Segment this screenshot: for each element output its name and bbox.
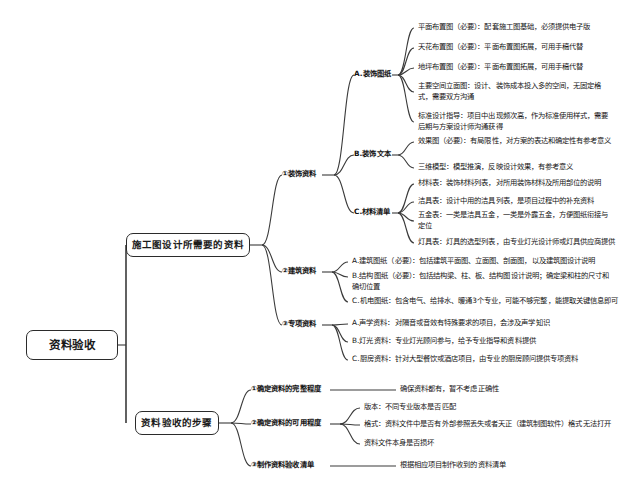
leaf-label: 三维模型：模型推演，反映设计效果，有参考意义 <box>418 162 573 171</box>
node-step-completeness[interactable]: ①确定资料的完整程度 <box>251 384 321 395</box>
node-label: ②确定资料的可用程度 <box>251 418 321 427</box>
leaf-main-elevation[interactable]: 主要空间立面图：设计、装饰成本投入多的空间，无固定格式，需要双方沟通 <box>418 81 614 102</box>
leaf-ensure-all-present[interactable]: 确保资料都有，暂不考虑正确性 <box>400 384 499 395</box>
node-material-list[interactable]: C.材料清单 <box>354 207 390 218</box>
root-node-label: 资料验收 <box>49 338 95 352</box>
leaf-kitchen-materials[interactable]: C.厨房资料：针对大型餐饮或酒店项目，由专业的厨房顾问提供专项资料 <box>352 354 578 365</box>
leaf-format-issue[interactable]: 格式：资料文件中是否有外部参照丢失或者天正（建筑制图软件）格式无法打开 <box>364 419 611 430</box>
leaf-ceiling-layout[interactable]: 天花布置图（必要）：平面布置图拓展，可用手稿代替 <box>418 42 583 53</box>
leaf-lamp-table[interactable]: 灯具表：灯具的选型列表，由专业灯光设计师或灯具供应商提供 <box>418 237 615 248</box>
leaf-3d-model[interactable]: 三维模型：模型推演，反映设计效果，有参考意义 <box>418 162 573 173</box>
leaf-label: 洁具表：设计中用的洁具列表，是项目过程中的补充资料 <box>418 196 594 205</box>
node-step-usability[interactable]: ②确定资料的可用程度 <box>251 418 321 429</box>
node-label: ③专项资料 <box>282 319 316 328</box>
leaf-label: B.结构图纸（必要）：包括结构梁、柱、板、结构图设计说明；确定梁和柱的尺寸和确切… <box>352 271 609 291</box>
node-label: ①确定资料的完整程度 <box>251 384 321 393</box>
leaf-sanitary-table[interactable]: 洁具表：设计中用的洁具列表，是项目过程中的补充资料 <box>418 196 594 207</box>
leaf-label: 平面布置图（必要）：配套施工图基础，必须提供电子版 <box>418 22 590 31</box>
leaf-label: C.机电图纸：包含电气、给排水、暖通3个专业，可能不够完整，能提取关键信息即可 <box>352 296 618 305</box>
node-label: ③制作资料验收清单 <box>251 460 314 469</box>
node-label: B.装饰文本 <box>354 149 391 158</box>
leaf-label: 效果图（必要）：有局限性，对方案的表达和确定性有参考意义 <box>418 136 611 145</box>
leaf-label: 版本：不同专业版本是否匹配 <box>364 402 456 411</box>
node-step-checklist[interactable]: ③制作资料验收清单 <box>251 460 314 471</box>
leaf-rendering[interactable]: 效果图（必要）：有局限性，对方案的表达和确定性有参考意义 <box>418 136 611 147</box>
leaf-label: 主要空间立面图：设计、装饰成本投入多的空间，无固定格式，需要双方沟通 <box>418 81 601 101</box>
leaf-version-match[interactable]: 版本：不同专业版本是否匹配 <box>364 402 456 413</box>
leaf-floor-layout[interactable]: 地坪布置图（必要）：平面布置图拓展，可用手稿代替 <box>418 62 583 73</box>
node-special-materials[interactable]: ③专项资料 <box>282 319 316 330</box>
leaf-architectural-drawings[interactable]: A.建筑图纸（必要）：包括建筑平面图、立面图、剖面图，以及建筑图设计说明 <box>352 256 595 267</box>
leaf-label: 天花布置图（必要）：平面布置图拓展，可用手稿代替 <box>418 42 583 51</box>
leaf-label: 地坪布置图（必要）：平面布置图拓展，可用手稿代替 <box>418 62 583 71</box>
leaf-label: 格式：资料文件中是否有外部参照丢失或者天正（建筑制图软件）格式无法打开 <box>364 419 611 428</box>
leaf-label: C.厨房资料：针对大型餐饮或酒店项目，由专业的厨房顾问提供专项资料 <box>352 354 578 363</box>
leaf-label: 五金表：一类是洁具五金，一类是外露五金，方便图纸衔接与定位 <box>418 210 608 230</box>
node-label: C.材料清单 <box>354 207 390 216</box>
leaf-structural-drawings[interactable]: B.结构图纸（必要）：包括结构梁、柱、板、结构图设计说明；确定梁和柱的尺寸和确切… <box>352 271 614 292</box>
mindmap-canvas: 资料验收 施工图设计所需要的资料 资料验收的步骤 ①装饰资料 ②建筑资料 ③专项… <box>0 0 632 498</box>
leaf-file-corrupted[interactable]: 资料文件本身是否损坏 <box>364 438 435 449</box>
leaf-mep-drawings[interactable]: C.机电图纸：包含电气、给排水、暖通3个专业，可能不够完整，能提取关键信息即可 <box>352 296 618 307</box>
leaf-material-table[interactable]: 材料表：装饰材料列表，对所用装饰材料及所用部位的说明 <box>418 178 601 189</box>
root-node[interactable]: 资料验收 <box>26 330 118 360</box>
node-label: ②建筑资料 <box>282 266 316 275</box>
leaf-label: 标准设计指导：项目中出现频次高，作为标准使用样式，需要后期与方案设计师沟通获得 <box>418 111 608 131</box>
leaf-acoustic-materials[interactable]: A.声学资料：对隔音或音效有特殊要求的项目，会涉及声学知识 <box>352 318 550 329</box>
leaf-label: B.灯光资料：专业灯光顾问参与，给予专业指导和资料提供 <box>352 336 536 345</box>
leaf-standard-design-guide[interactable]: 标准设计指导：项目中出现频次高，作为标准使用样式，需要后期与方案设计师沟通获得 <box>418 111 614 132</box>
node-architecture-materials[interactable]: ②建筑资料 <box>282 266 316 277</box>
leaf-label: 材料表：装饰材料列表，对所用装饰材料及所用部位的说明 <box>418 178 601 187</box>
leaf-label: 灯具表：灯具的选型列表，由专业灯光设计师或灯具供应商提供 <box>418 237 615 246</box>
leaf-plan-layout[interactable]: 平面布置图（必要）：配套施工图基础，必须提供电子版 <box>418 22 590 33</box>
leaf-label: A.声学资料：对隔音或音效有特殊要求的项目，会涉及声学知识 <box>352 318 550 327</box>
node-decoration-document[interactable]: B.装饰文本 <box>354 149 391 160</box>
node-decoration-materials[interactable]: ①装饰资料 <box>282 169 316 180</box>
node-decoration-drawings[interactable]: A.装饰图纸 <box>354 69 391 80</box>
leaf-label: 根据相应项目制作收到的资料清单 <box>400 460 506 469</box>
branch-label: 施工图设计所需要的资料 <box>132 239 244 251</box>
leaf-label: 资料文件本身是否损坏 <box>364 438 435 447</box>
node-label: ①装饰资料 <box>282 169 316 178</box>
leaf-make-checklist[interactable]: 根据相应项目制作收到的资料清单 <box>400 460 506 471</box>
leaf-label: A.建筑图纸（必要）：包括建筑平面图、立面图、剖面图，以及建筑图设计说明 <box>352 256 595 265</box>
leaf-label: 确保资料都有，暂不考虑正确性 <box>400 384 499 393</box>
branch-node-construction-drawings[interactable]: 施工图设计所需要的资料 <box>126 233 250 257</box>
leaf-hardware-table[interactable]: 五金表：一类是洁具五金，一类是外露五金，方便图纸衔接与定位 <box>418 210 614 231</box>
leaf-lighting-materials[interactable]: B.灯光资料：专业灯光顾问参与，给予专业指导和资料提供 <box>352 336 536 347</box>
branch-node-acceptance-steps[interactable]: 资料验收的步骤 <box>135 411 219 435</box>
node-label: A.装饰图纸 <box>354 69 391 78</box>
branch-label: 资料验收的步骤 <box>141 417 212 429</box>
